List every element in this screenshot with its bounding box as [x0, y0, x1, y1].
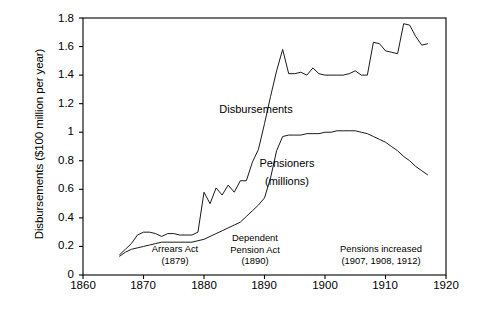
- x-tick-label-1910: 1910: [360, 279, 410, 291]
- annotation-arrears-act-line1: Arrears Act: [130, 243, 220, 255]
- annotation-pensions-increased-line2: (1907, 1908, 1912): [316, 255, 446, 267]
- chart-container: Disbursements ($100 million per year) 1.…: [0, 0, 478, 316]
- annotation-dependent-pension-act-line2: Pension Act: [209, 244, 301, 256]
- y-tick-label-1.6: 1.6: [34, 40, 74, 52]
- y-tick-label-1.2: 1.2: [34, 97, 74, 109]
- x-tick-label-1870: 1870: [118, 279, 168, 291]
- x-tick-label-1900: 1900: [300, 279, 350, 291]
- x-tick-label-1920: 1920: [421, 279, 471, 291]
- annotation-dependent-pension-act-line3: (1890): [209, 255, 301, 267]
- annotation-dependent-pension-act: Dependent Pension Act (1890): [209, 232, 301, 267]
- x-tick-label-1860: 1860: [58, 279, 108, 291]
- y-tick-label-0.8: 0.8: [34, 154, 74, 166]
- y-tick-label-0.6: 0.6: [34, 182, 74, 194]
- annotation-pensions-increased: Pensions increased (1907, 1908, 1912): [316, 243, 446, 266]
- annotation-pensions-increased-line1: Pensions increased: [316, 243, 446, 255]
- annotation-arrears-act: Arrears Act (1879): [130, 243, 220, 266]
- series-label-pensioners: Pensioners: [232, 157, 342, 169]
- series-label-disbursements: Disbursements: [196, 103, 316, 115]
- y-tick-label-0.2: 0.2: [34, 239, 74, 251]
- y-tick-label-1: 1: [34, 125, 74, 137]
- y-axis-label: Disbursements ($100 million per year): [33, 19, 45, 269]
- y-tick-label-1.4: 1.4: [34, 68, 74, 80]
- series-sublabel-pensioners-units: (millions): [232, 175, 342, 187]
- y-tick-label-0.4: 0.4: [34, 211, 74, 223]
- y-tick-label-1.8: 1.8: [34, 12, 74, 24]
- annotation-arrears-act-line2: (1879): [130, 255, 220, 267]
- x-tick-label-1890: 1890: [239, 279, 289, 291]
- x-tick-label-1880: 1880: [179, 279, 229, 291]
- annotation-dependent-pension-act-line1: Dependent: [209, 232, 301, 244]
